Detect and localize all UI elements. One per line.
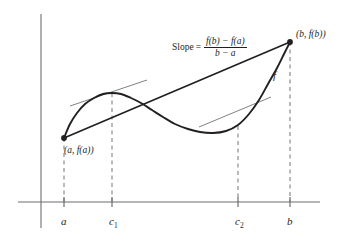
curve-label-f: f xyxy=(273,70,276,81)
x-tick-label-b: b xyxy=(287,216,293,227)
slope-formula-numerator: f(b) − f(a) xyxy=(204,36,247,46)
x-tick-label-a: a xyxy=(61,216,67,227)
slope-formula-equals: = xyxy=(196,42,201,52)
marked-point-a xyxy=(61,135,67,141)
x-tick-label-subscript: 2 xyxy=(240,221,244,230)
marked-point-b xyxy=(287,39,293,45)
x-tick-label-c1: c1 xyxy=(109,216,118,230)
slope-formula-denominator: b − a xyxy=(213,48,238,58)
slope-formula-label: Slope xyxy=(172,42,194,52)
tangent-lines-group xyxy=(70,80,271,127)
x-tick-label-base: a xyxy=(61,215,67,227)
mvt-figure: Slope = f(b) − f(a) b − a (a, f(a)) (b, … xyxy=(0,0,345,242)
point-label-b: (b, f(b)) xyxy=(296,30,326,40)
tangent-line-tangent-at-c2 xyxy=(199,97,271,127)
slope-formula: Slope = f(b) − f(a) b − a xyxy=(172,36,247,58)
slope-formula-fraction: f(b) − f(a) b − a xyxy=(204,36,247,58)
x-tick-label-base: b xyxy=(287,215,293,227)
point-label-a: (a, f(a)) xyxy=(64,146,94,156)
x-tick-label-subscript: 1 xyxy=(114,221,118,230)
x-tick-label-c2: c2 xyxy=(235,216,244,230)
